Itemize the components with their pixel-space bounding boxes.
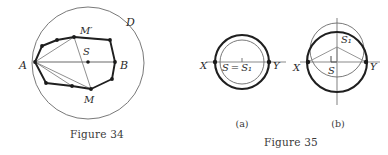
center-equality-label-a: S = S₁: [222, 62, 252, 73]
point-M-prime-label: M′: [79, 25, 93, 36]
figure-35a-caption: (a): [202, 118, 282, 129]
point-S-label: S: [83, 46, 90, 57]
figure-35-caption: Figure 35: [194, 136, 388, 148]
figure-page: D M′ S A B M Figure 34: [0, 0, 388, 155]
right-angle-marker-b: [331, 56, 337, 62]
point-X-marker-a: [213, 60, 217, 64]
point-A-label: A: [18, 59, 27, 72]
center-S-label-b: S: [328, 65, 335, 76]
figure-34: D M′ S A B M Figure 34: [0, 0, 194, 155]
point-X-label-b: X: [292, 62, 301, 73]
figure-35: X Y S = S₁: [194, 0, 388, 155]
point-S-marker: [86, 60, 90, 64]
figure-35-drawing: X Y S = S₁: [194, 0, 388, 118]
figure-34-drawing: D M′ S A B M: [0, 0, 194, 128]
point-Y-marker-b: [364, 60, 368, 64]
point-B-label: B: [119, 59, 128, 72]
point-X-label-a: X: [199, 60, 208, 71]
point-M-label: M: [83, 94, 95, 105]
center-S1-label-b: S₁: [341, 34, 352, 45]
figure-35b-panel: X Y S S₁: [292, 18, 380, 105]
spokes-b: [308, 47, 366, 62]
point-X-marker-b: [306, 60, 310, 64]
figure-34-caption: Figure 34: [0, 128, 194, 140]
figure-35a-panel: X Y S = S₁: [199, 35, 286, 89]
point-Y-marker-a: [267, 60, 271, 64]
figure-35b-caption: (b): [298, 118, 378, 129]
disk-label-D: D: [125, 16, 135, 29]
